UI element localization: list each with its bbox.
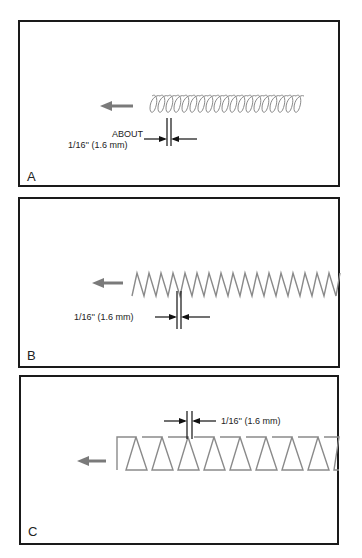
direction-arrow-icon [77,456,106,466]
dimension-value: 1/16'' (1.6 mm) [74,312,133,322]
dimension-marker [144,118,197,146]
panel-label: A [27,169,36,184]
zigzag-stitch [132,273,340,296]
dimension-label: ABOUT [112,129,138,139]
zigzag-stitch-illustration [20,199,342,370]
dimension-marker [155,291,210,329]
coil-stitch-illustration [20,22,342,189]
panel-label: B [27,348,36,363]
panel-a: ABOUT 1/16'' (1.6 mm) A [18,20,340,187]
dimension-value: 1/16'' (1.6 mm) [68,140,127,150]
direction-arrow-icon [92,278,123,288]
dimension-marker [164,411,216,439]
coil-stitch [150,95,304,112]
dimension-value: 1/16'' (1.6 mm) [221,416,280,426]
trapezoid-stitch-illustration [21,377,341,547]
panel-b: 1/16'' (1.6 mm) B [18,197,340,368]
panel-c: 1/16'' (1.6 mm) C [19,375,339,545]
direction-arrow-icon [100,101,133,111]
trapezoid-stitch [117,437,339,470]
panel-label: C [28,524,37,539]
